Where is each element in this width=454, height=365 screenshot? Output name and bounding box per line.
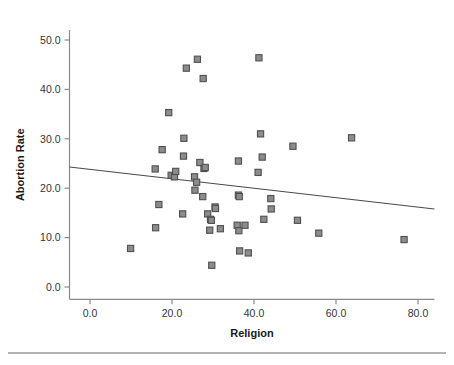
data-point-marker <box>200 193 206 199</box>
data-point-marker <box>236 228 242 234</box>
x-axis: 0.020.040.060.080.0 <box>70 299 435 319</box>
y-tick-label: 50.0 <box>40 34 61 46</box>
data-point-marker <box>259 154 265 160</box>
data-point-marker <box>209 262 215 268</box>
x-tick-label: 20.0 <box>162 307 183 319</box>
data-point-marker <box>316 230 322 236</box>
data-point-marker <box>207 227 213 233</box>
data-point-marker <box>202 164 208 170</box>
data-point-marker <box>181 135 187 141</box>
data-point-marker <box>159 147 165 153</box>
y-tick-label: 20.0 <box>40 182 61 194</box>
data-point-marker <box>268 206 274 212</box>
plot-canvas: 0.010.020.030.040.050.0 0.020.040.060.08… <box>0 0 454 365</box>
data-point-marker <box>242 222 248 228</box>
data-point-marker <box>348 135 354 141</box>
data-points <box>127 55 407 269</box>
data-point-marker <box>257 131 263 137</box>
data-point-marker <box>194 179 200 185</box>
regression-line <box>70 167 435 209</box>
data-point-marker <box>127 245 133 251</box>
y-tick-label: 40.0 <box>40 83 61 95</box>
data-point-marker <box>290 143 296 149</box>
data-point-marker <box>235 158 241 164</box>
y-tick-label: 10.0 <box>40 231 61 243</box>
data-point-marker <box>294 217 300 223</box>
x-tick-label: 0.0 <box>83 307 98 319</box>
x-tick-label: 80.0 <box>408 307 429 319</box>
data-point-marker <box>208 217 214 223</box>
data-point-marker <box>166 110 172 116</box>
data-point-marker <box>268 195 274 201</box>
x-axis-title: Religion <box>230 327 274 339</box>
data-point-marker <box>245 250 251 256</box>
data-point-marker <box>153 225 159 231</box>
data-point-marker <box>173 168 179 174</box>
data-point-marker <box>217 226 223 232</box>
data-point-marker <box>212 205 218 211</box>
scatter-plot-figure: 0.010.020.030.040.050.0 0.020.040.060.08… <box>0 0 454 365</box>
data-point-marker <box>194 56 200 62</box>
data-point-marker <box>192 187 198 193</box>
data-point-marker <box>152 166 158 172</box>
x-tick-label: 60.0 <box>326 307 347 319</box>
data-point-marker <box>401 236 407 242</box>
y-axis: 0.010.020.030.040.050.0 <box>40 30 69 299</box>
data-point-marker <box>200 75 206 81</box>
y-tick-label: 0.0 <box>46 281 61 293</box>
data-point-marker <box>180 211 186 217</box>
data-point-marker <box>237 248 243 254</box>
data-point-marker <box>261 216 267 222</box>
regression-line-segment <box>70 167 435 209</box>
data-point-marker <box>255 169 261 175</box>
data-point-marker <box>156 201 162 207</box>
data-point-marker <box>256 55 262 61</box>
x-tick-label: 40.0 <box>244 307 265 319</box>
data-point-marker <box>236 193 242 199</box>
data-point-marker <box>180 153 186 159</box>
data-point-marker <box>183 65 189 71</box>
y-tick-label: 30.0 <box>40 133 61 145</box>
y-axis-title: Abortion Rate <box>14 128 26 201</box>
